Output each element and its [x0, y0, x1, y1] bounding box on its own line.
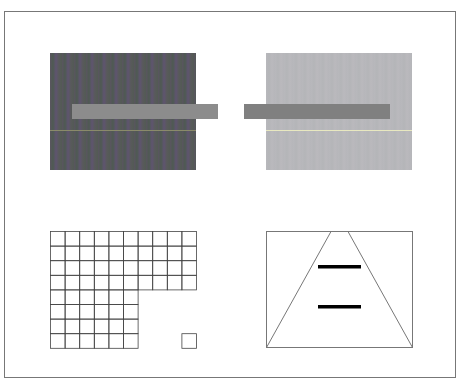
- ponzo-triangle-diagram: [0, 0, 460, 391]
- triangle-outline: [267, 232, 413, 348]
- triangle-box: [267, 232, 413, 348]
- lower-ponzo-bar: [318, 305, 361, 309]
- upper-ponzo-bar: [318, 265, 361, 269]
